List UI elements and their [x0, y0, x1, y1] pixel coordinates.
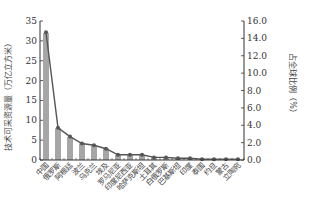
y-tick-right: 8.0 — [247, 86, 262, 96]
y-tick-left: 15 — [26, 95, 38, 105]
y-tick-right: 2.0 — [247, 138, 262, 148]
line-marker — [56, 126, 60, 130]
line-marker — [104, 147, 108, 151]
bar — [91, 146, 97, 160]
y-tick-right: 0.0 — [247, 155, 262, 165]
bar — [79, 143, 85, 160]
line-marker — [200, 157, 204, 161]
y-axis-title-right: 占全球比例（%） — [288, 53, 298, 117]
y-tick-left: 25 — [26, 56, 38, 66]
x-axis-labels: 中国俄罗斯阿根廷波兰乌克兰埃及罗马尼亚印度尼西亚哈萨克斯坦土耳其白俄罗斯巴基斯坦… — [33, 160, 243, 193]
line-marker — [92, 143, 96, 147]
y-tick-left: 10 — [26, 115, 38, 125]
line-marker — [80, 141, 84, 145]
line-marker — [212, 157, 216, 161]
line-marker — [44, 30, 48, 34]
line-marker — [140, 153, 144, 157]
y-tick-left: 20 — [26, 76, 38, 86]
bar — [55, 128, 61, 160]
y-tick-left: 5 — [31, 135, 37, 145]
line-marker — [152, 155, 156, 159]
line-marker — [224, 157, 228, 161]
combo-chart: 051015202530350.02.04.06.08.010.012.014.… — [0, 0, 312, 215]
y-tick-right: 10.0 — [247, 68, 267, 78]
line-marker — [116, 153, 120, 157]
y-tick-right: 4.0 — [247, 120, 262, 130]
y-axis-title-left: 技术可采资源量（万亿立方米） — [3, 39, 13, 151]
line-marker — [164, 155, 168, 159]
y-tick-right: 16.0 — [247, 16, 267, 26]
y-tick-right: 12.0 — [247, 51, 267, 61]
line-marker — [236, 157, 240, 161]
bar — [67, 137, 73, 160]
y-tick-left: 35 — [26, 16, 38, 26]
line-marker — [128, 153, 132, 157]
bar-series — [43, 33, 241, 160]
y-tick-right: 14.0 — [247, 33, 267, 43]
y-tick-right: 6.0 — [247, 103, 262, 113]
line-marker — [68, 135, 72, 139]
axes: 051015202530350.02.04.06.08.010.012.014.… — [26, 16, 268, 165]
line-series — [44, 30, 240, 161]
y-tick-left: 0 — [31, 155, 37, 165]
y-tick-left: 30 — [26, 36, 38, 46]
